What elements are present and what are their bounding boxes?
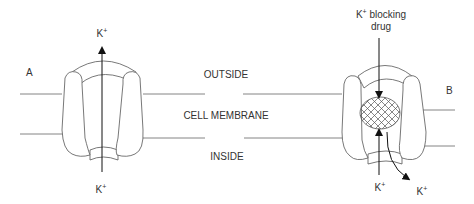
panel-label-a: A [26, 68, 33, 78]
channel-a [62, 61, 143, 160]
region-outside-label: OUTSIDE [204, 70, 248, 80]
region-inside-label: INSIDE [210, 152, 243, 162]
panel-label-b: B [446, 86, 453, 96]
ion-label-a-top: K+ [97, 27, 108, 39]
diagram-canvas: A B OUTSIDE CELL MEMBRANE INSIDE K+ K+ K… [0, 0, 474, 204]
ion-label-b-in: K+ [375, 181, 386, 193]
ion-label-b-out: K+ [417, 185, 428, 197]
ion-label-a-bottom: K+ [96, 183, 107, 195]
drug-label-line1: K+ blocking [356, 8, 406, 20]
drug-label-line2: drug [371, 22, 391, 32]
region-membrane-label: CELL MEMBRANE [183, 111, 268, 121]
blocking-drug-region [360, 97, 400, 129]
diagram-svg [0, 0, 474, 204]
